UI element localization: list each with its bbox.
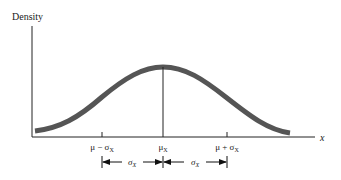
tick-label-mean: μX	[158, 142, 168, 153]
y-axis-label: Density	[12, 11, 43, 22]
tick-label-minus-sigma: μ − σX	[90, 142, 114, 153]
tick-label-plus-sigma: μ + σX	[215, 142, 239, 153]
x-axis-label: x	[319, 132, 325, 143]
span-label-left: σX	[128, 157, 136, 168]
span-label-right: σX	[191, 157, 199, 168]
normal-distribution-diagram: Density x μ − σX μX μ + σX σX σX	[0, 0, 341, 180]
